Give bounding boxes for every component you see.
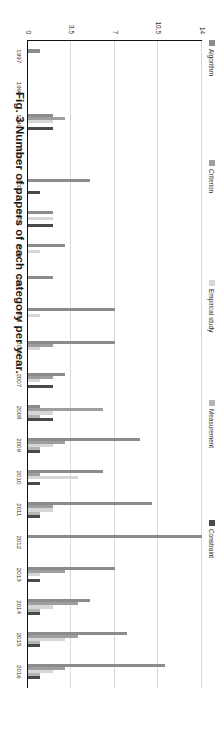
bar-empirical-study-2013[interactable] (28, 573, 40, 576)
y-axis-tick-labels: 03.5710.514 (28, 0, 202, 38)
bar-group-2003 (28, 235, 202, 267)
bar-empirical-study-2007[interactable] (28, 379, 40, 382)
bar-constraint-2008[interactable] (28, 418, 53, 421)
legend-item-measurement[interactable]: Measurement (209, 400, 216, 520)
bar-group-2015 (28, 623, 202, 655)
bar-group-2010 (28, 461, 202, 493)
bar-group-1997 (28, 41, 202, 73)
y-axis-tick-label: 14 (199, 27, 206, 34)
bar-constraint-2013[interactable] (28, 579, 40, 582)
legend-label: Measurement (209, 409, 216, 448)
y-axis-tick-label: 0 (25, 30, 32, 34)
legend-swatch-icon (209, 400, 215, 406)
x-axis-tick-label-2008: 2008 (0, 396, 26, 428)
y-axis-tick-label: 10.5 (155, 22, 162, 34)
bar-constraint-2007[interactable] (28, 385, 53, 388)
bar-algorithm-2003[interactable] (28, 244, 65, 247)
x-axis-tick-label-2015: 2015 (0, 623, 26, 655)
x-axis-tick-label-2002: 2002 (0, 202, 26, 234)
bar-empirical-study-2006[interactable] (28, 347, 40, 350)
bar-group-2013 (28, 559, 202, 591)
x-axis-tick-label-2006: 2006 (0, 332, 26, 364)
legend-item-criterion[interactable]: Criterion (209, 160, 216, 280)
plot-area (28, 40, 202, 688)
x-axis-tick-label-1997: 1997 (0, 40, 26, 72)
bar-group-2008 (28, 397, 202, 429)
bar-group-2000 (28, 138, 202, 170)
x-axis-tick-label-2005: 2005 (0, 299, 26, 331)
legend-swatch-icon (209, 520, 215, 526)
bar-group-2009 (28, 429, 202, 461)
legend-label: Criterion (209, 169, 216, 193)
legend-swatch-icon (209, 160, 215, 166)
x-axis-tick-label-2007: 2007 (0, 364, 26, 396)
bar-groups (28, 41, 202, 688)
bar-algorithm-2002[interactable] (28, 211, 53, 214)
legend-item-empirical-study[interactable]: Empirical study (209, 280, 216, 400)
bar-group-2004 (28, 267, 202, 299)
bar-algorithm-2005[interactable] (28, 308, 115, 311)
bar-group-1998 (28, 73, 202, 105)
bar-group-1999 (28, 106, 202, 138)
legend-item-algorithm[interactable]: Algorithm (209, 40, 216, 160)
x-axis-tick-label-2010: 2010 (0, 461, 26, 493)
x-axis-tick-label-2016: 2016 (0, 656, 26, 688)
bar-group-2016 (28, 656, 202, 688)
bar-algorithm-2004[interactable] (28, 276, 53, 279)
x-axis-tick-label-1998: 1998 (0, 72, 26, 104)
y-axis-tick-label: 7 (112, 30, 119, 34)
bar-empirical-study-2003[interactable] (28, 250, 40, 253)
x-axis-tick-label-2013: 2013 (0, 559, 26, 591)
bar-group-2002 (28, 203, 202, 235)
bar-constraint-2011[interactable] (28, 515, 40, 518)
grouped-bar-chart: AlgorithmCriterionEmpirical studyMeasure… (0, 0, 222, 700)
bar-constraint-2002[interactable] (28, 224, 53, 227)
bar-group-2014 (28, 591, 202, 623)
bar-group-2011 (28, 494, 202, 526)
bar-group-2007 (28, 364, 202, 396)
bar-constraint-2014[interactable] (28, 612, 40, 615)
bar-constraint-1999[interactable] (28, 127, 53, 130)
bar-constraint-2001[interactable] (28, 191, 40, 194)
bar-group-2006 (28, 332, 202, 364)
x-axis-tick-label-1999: 1999 (0, 105, 26, 137)
x-axis-tick-label-2011: 2011 (0, 494, 26, 526)
x-axis-tick-label-2014: 2014 (0, 591, 26, 623)
x-axis-tick-label-2009: 2009 (0, 429, 26, 461)
x-axis-tick-label-2004: 2004 (0, 267, 26, 299)
bar-algorithm-2012[interactable] (28, 535, 202, 538)
legend-label: Algorithm (209, 49, 216, 76)
y-axis-tick-label: 3.5 (68, 25, 75, 34)
x-axis-tick-label-2012: 2012 (0, 526, 26, 558)
chart-legend: AlgorithmCriterionEmpirical studyMeasure… (204, 40, 220, 640)
bar-empirical-study-2005[interactable] (28, 314, 40, 317)
x-axis-tick-label-2003: 2003 (0, 234, 26, 266)
bar-group-2012 (28, 526, 202, 558)
bar-empirical-study-2002[interactable] (28, 217, 53, 220)
bar-group-2005 (28, 300, 202, 332)
bar-constraint-2010[interactable] (28, 482, 40, 485)
bar-group-2001 (28, 170, 202, 202)
bar-constraint-2009[interactable] (28, 450, 40, 453)
bar-constraint-2016[interactable] (28, 676, 40, 679)
bar-algorithm-1997[interactable] (28, 49, 40, 52)
legend-swatch-icon (209, 40, 215, 46)
x-axis-line (27, 40, 28, 688)
bar-empirical-study-1999[interactable] (28, 120, 53, 123)
x-axis-tick-label-2000: 2000 (0, 137, 26, 169)
legend-label: Constraint (209, 529, 216, 558)
bar-empirical-study-2010[interactable] (28, 476, 78, 479)
chart-stage: AlgorithmCriterionEmpirical studyMeasure… (0, 0, 222, 700)
bar-constraint-2015[interactable] (28, 644, 40, 647)
legend-swatch-icon (209, 280, 215, 286)
legend-item-constraint[interactable]: Constraint (209, 520, 216, 640)
x-axis-tick-label-2001: 2001 (0, 170, 26, 202)
legend-label: Empirical study (209, 289, 216, 332)
x-axis-tick-labels: 1997199819992000200120022003200420052006… (0, 40, 26, 688)
bar-algorithm-2001[interactable] (28, 179, 90, 182)
